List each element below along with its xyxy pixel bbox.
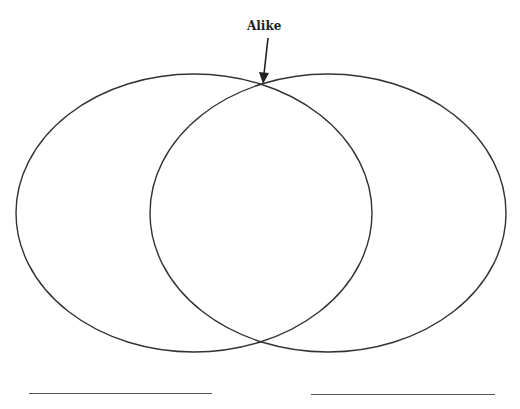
alike-label: Alike: [247, 19, 281, 33]
left-set-circle: [16, 74, 372, 352]
left-set-label-line[interactable]: [29, 393, 212, 394]
venn-diagram: [0, 0, 520, 409]
right-set-circle: [150, 74, 506, 352]
right-set-label-line[interactable]: [311, 394, 495, 395]
alike-arrow: [259, 38, 269, 84]
